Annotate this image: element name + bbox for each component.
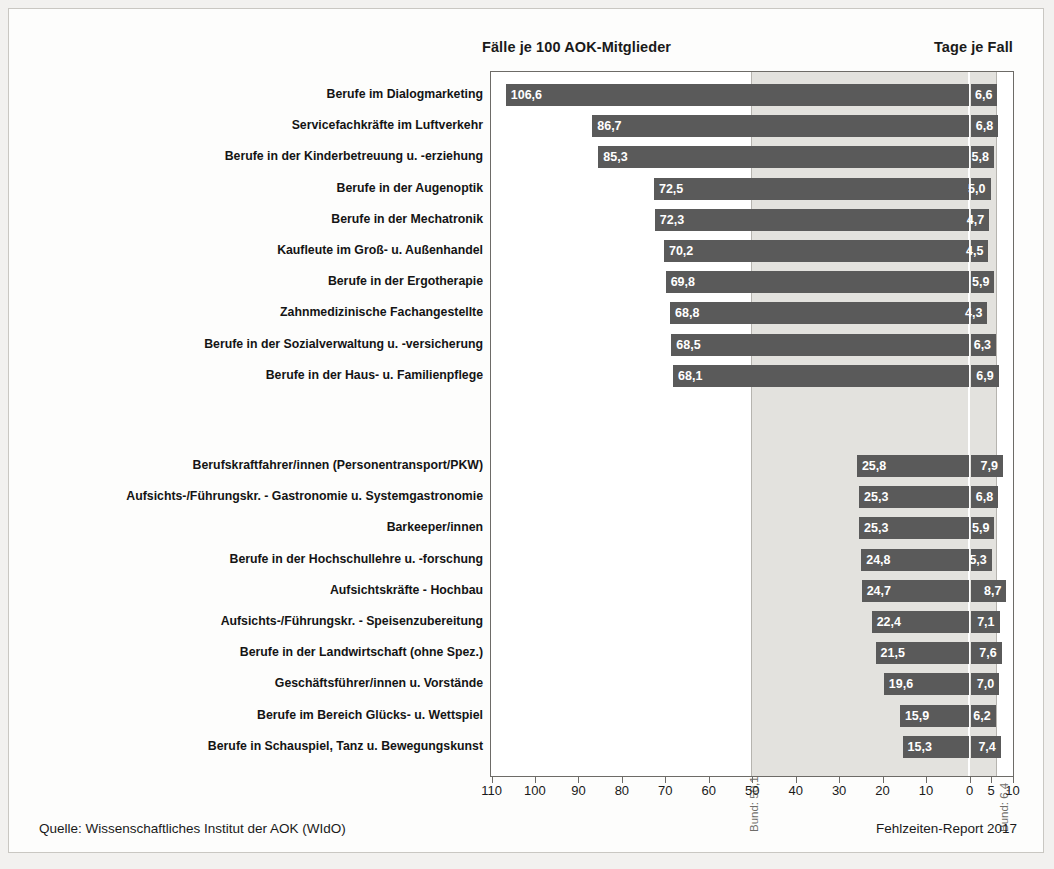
axis-tick-label: 110: [481, 783, 502, 798]
category-label: Berufe im Dialogmarketing: [15, 83, 483, 105]
category-label: Kaufleute im Groß- u. Außenhandel: [15, 239, 483, 261]
bar-row: 68,56,3: [491, 334, 1013, 356]
bar-row: 15,96,2: [491, 705, 1013, 727]
bar-value-faelle: 106,6: [511, 88, 542, 102]
bar-value-tage: 6,3: [974, 338, 991, 352]
axis-tick-label: 10: [919, 783, 933, 798]
bar-row: 25,87,9: [491, 455, 1013, 477]
bar-tage: 6,2: [971, 705, 996, 727]
bar-faelle: 68,1: [673, 365, 969, 387]
bar-faelle: 85,3: [598, 146, 969, 168]
left-axis-title: Fälle je 100 AOK-Mitglieder: [482, 39, 671, 55]
bar-tage: 7,1: [971, 611, 1000, 633]
bar-value-faelle: 24,7: [867, 584, 891, 598]
bar-tage: 6,3: [971, 334, 997, 356]
bar-value-tage: 7,4: [978, 740, 995, 754]
bar-value-faelle: 72,5: [659, 182, 683, 196]
bar-value-tage: 7,9: [981, 459, 998, 473]
bar-faelle: 25,3: [859, 517, 969, 539]
bar-value-tage: 4,5: [966, 244, 983, 258]
bar-value-tage: 7,1: [977, 615, 994, 629]
axis-tick-label: 80: [615, 783, 629, 798]
bar-value-faelle: 25,3: [864, 490, 888, 504]
bar-tage: 7,0: [971, 673, 1000, 695]
bar-tage: 5,0: [971, 178, 991, 200]
bar-row: 24,78,7: [491, 580, 1013, 602]
bar-row: 25,36,8: [491, 486, 1013, 508]
bar-value-tage: 6,8: [976, 119, 993, 133]
category-label: Geschäftsführer/innen u. Vorstände: [15, 672, 483, 694]
axis-tick-label: 5: [987, 783, 994, 798]
bar-row: 72,55,0: [491, 178, 1013, 200]
bar-value-tage: 8,7: [984, 584, 1001, 598]
bar-faelle: 22,4: [872, 611, 969, 633]
bar-value-faelle: 72,3: [660, 213, 684, 227]
bar-value-tage: 5,8: [972, 150, 989, 164]
bar-row: 19,67,0: [491, 673, 1013, 695]
bar-value-faelle: 19,6: [889, 677, 913, 691]
bar-row: 22,47,1: [491, 611, 1013, 633]
bar-faelle: 15,9: [900, 705, 969, 727]
bar-faelle: 72,5: [654, 178, 969, 200]
bar-row: 68,16,9: [491, 365, 1013, 387]
category-label: Zahnmedizinische Fachangestellte: [15, 301, 483, 323]
category-label: Berufe im Bereich Glücks- u. Wettspiel: [15, 704, 483, 726]
bar-tage: 8,7: [971, 580, 1007, 602]
bar-value-faelle: 68,5: [676, 338, 700, 352]
category-label: Berufe in der Landwirtschaft (ohne Spez.…: [15, 641, 483, 663]
category-label: Aufsichts-/Führungskr. - Speisenzubereit…: [15, 610, 483, 632]
bar-faelle: 69,8: [666, 271, 969, 293]
category-label: Berufe in der Augenoptik: [15, 177, 483, 199]
bar-tage: 5,9: [971, 517, 995, 539]
category-label: Aufsichtskräfte - Hochbau: [15, 579, 483, 601]
bar-row: 24,85,3: [491, 549, 1013, 571]
bar-value-tage: 5,0: [968, 182, 985, 196]
bar-value-faelle: 86,7: [597, 119, 621, 133]
bar-tage: 5,3: [971, 549, 992, 571]
bar-value-faelle: 15,9: [905, 709, 929, 723]
bar-value-faelle: 85,3: [603, 150, 627, 164]
bar-value-tage: 6,2: [973, 709, 990, 723]
category-label: Berufe in der Hochschullehre u. -forschu…: [15, 548, 483, 570]
axis-tick-label: 20: [875, 783, 889, 798]
bar-faelle: 24,8: [861, 549, 969, 571]
bar-tage: 7,9: [971, 455, 1003, 477]
bar-value-tage: 6,8: [976, 490, 993, 504]
bar-tage: 6,6: [971, 84, 998, 106]
report-note: Fehlzeiten-Report 2017: [876, 821, 1017, 836]
bar-value-faelle: 69,8: [671, 275, 695, 289]
bar-faelle: 19,6: [884, 673, 969, 695]
bar-value-faelle: 68,1: [678, 369, 702, 383]
category-label: Servicefachkräfte im Luftverkehr: [15, 114, 483, 136]
bar-tage: 7,4: [971, 736, 1001, 758]
bar-faelle: 15,3: [903, 736, 969, 758]
bar-row: 69,85,9: [491, 271, 1013, 293]
bar-tage: 7,6: [971, 642, 1002, 664]
bar-row: 70,24,5: [491, 240, 1013, 262]
bar-tage: 5,9: [971, 271, 995, 293]
bar-value-tage: 4,7: [967, 213, 984, 227]
bar-faelle: 68,5: [671, 334, 969, 356]
axis-tick-label: 60: [702, 783, 716, 798]
bar-row: 15,37,4: [491, 736, 1013, 758]
bar-value-tage: 6,9: [976, 369, 993, 383]
bar-row: 106,66,6: [491, 84, 1013, 106]
axis-tick-label: 70: [658, 783, 672, 798]
bar-value-tage: 4,3: [965, 306, 982, 320]
right-axis-title: Tage je Fall: [909, 39, 1013, 55]
bar-value-tage: 7,0: [977, 677, 994, 691]
bar-value-tage: 5,9: [972, 275, 989, 289]
category-label: Berufe in der Mechatronik: [15, 208, 483, 230]
bar-faelle: 25,8: [857, 455, 969, 477]
bar-value-faelle: 24,8: [866, 553, 890, 567]
bar-row: 86,76,8: [491, 115, 1013, 137]
bar-value-tage: 5,9: [972, 521, 989, 535]
source-note: Quelle: Wissenschaftliches Institut der …: [39, 821, 346, 836]
bar-value-tage: 7,6: [979, 646, 996, 660]
bar-value-faelle: 22,4: [877, 615, 901, 629]
bar-tage: 5,8: [971, 146, 994, 168]
bar-faelle: 68,8: [670, 302, 969, 324]
axis-tick-label: 10: [1005, 783, 1019, 798]
category-label: Berufe in der Ergotherapie: [15, 270, 483, 292]
category-label: Barkeeper/innen: [15, 516, 483, 538]
